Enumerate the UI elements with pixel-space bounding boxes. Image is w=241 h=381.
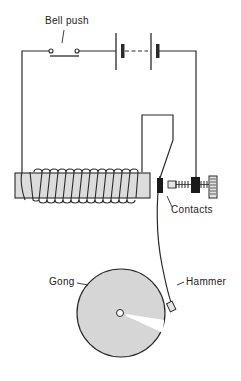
hammer-label: Hammer <box>186 276 226 287</box>
locking-nut <box>191 177 200 193</box>
wire-coil-to-bracket <box>142 115 173 178</box>
gong-label: Gong <box>49 276 75 287</box>
circuit-drawing <box>0 0 241 381</box>
contacts-label: Contacts <box>171 204 213 215</box>
armature-spring <box>157 176 172 305</box>
switch-terminal-left <box>49 49 53 53</box>
battery-icon <box>116 33 160 70</box>
hammer-leader <box>177 282 184 285</box>
switch-terminal-right <box>75 49 79 53</box>
wire-left <box>22 51 49 172</box>
adjusting-screw <box>168 176 217 198</box>
gong-icon <box>77 269 165 357</box>
electric-bell-diagram: Bell push Contacts Gong Hammer <box>0 0 241 381</box>
bell-push-label: Bell push <box>45 15 89 26</box>
hammer-head <box>167 301 176 312</box>
bell-push-leader <box>62 30 64 43</box>
contact-armature <box>157 178 163 193</box>
gong-leader <box>77 283 88 285</box>
bell-push-switch <box>49 30 79 56</box>
